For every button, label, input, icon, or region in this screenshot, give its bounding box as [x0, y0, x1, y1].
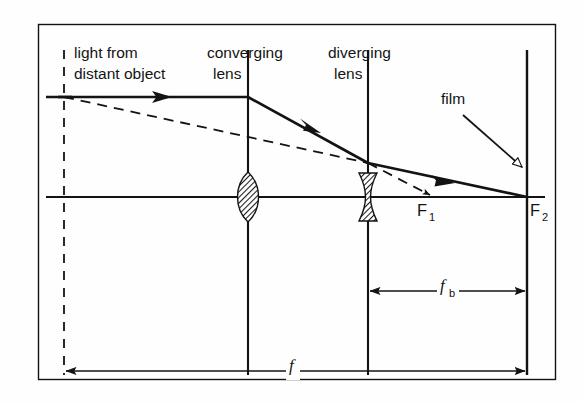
- construction-line-to-f1: [368, 163, 430, 195]
- refracted-ray-1-arrow-icon: [300, 119, 321, 133]
- focal-point-1-label: F: [417, 201, 427, 219]
- film-pointer-line: [463, 115, 522, 167]
- diagram-canvas: light from distant object converging len…: [0, 0, 582, 403]
- construction-line-dashed: [64, 97, 368, 163]
- film-label: film: [441, 90, 465, 107]
- converging-lens-label-line1: converging: [207, 44, 283, 61]
- light-source-label-line1: light from: [74, 44, 138, 61]
- diverging-lens-label-line1: diverging: [328, 44, 391, 61]
- converging-lens-glass: [238, 172, 259, 222]
- focal-point-1-subscript: 1: [429, 211, 435, 223]
- refracted-ray-segment-2: [368, 163, 527, 197]
- diverging-lens-label-line2: lens: [334, 65, 363, 82]
- focal-point-2-subscript: 2: [542, 211, 548, 223]
- converging-lens-label-line2: lens: [213, 65, 242, 82]
- focal-point-2-label: F: [530, 201, 540, 219]
- back-focal-length-subscript: b: [449, 287, 455, 299]
- optics-ray-diagram-figure: light from distant object converging len…: [0, 0, 582, 403]
- light-source-label-line2: distant object: [74, 65, 166, 82]
